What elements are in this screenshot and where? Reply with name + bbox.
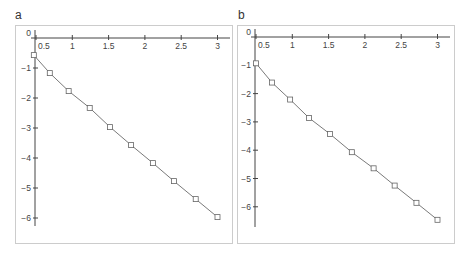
panel-a-plot: 0.511.522.530−1−2−3−4−5−6: [21, 28, 230, 226]
square-marker: [328, 132, 333, 137]
y-tick-label: −3: [21, 123, 31, 133]
square-marker: [349, 150, 354, 155]
square-marker: [288, 97, 293, 102]
x-tick-label: 0.5: [258, 40, 270, 50]
square-marker: [254, 61, 259, 66]
panel-b-plot: 0.511.522.530−1−2−3−4−5−6: [241, 27, 450, 227]
y-tick-label: 0: [26, 28, 31, 38]
square-marker: [306, 115, 311, 120]
chart-canvas: 0.511.522.530−1−2−3−4−5−6 0.511.522.530−…: [0, 0, 466, 255]
square-marker: [108, 125, 113, 130]
y-tick-label: −6: [241, 202, 251, 212]
data-line: [34, 55, 218, 217]
y-tick-label: −2: [241, 89, 251, 99]
x-tick-label: 1: [290, 40, 295, 50]
square-marker: [392, 183, 397, 188]
square-marker: [435, 217, 440, 222]
x-tick-label: 2: [363, 40, 368, 50]
panel-a-frame: [16, 26, 233, 244]
square-marker: [150, 161, 155, 166]
x-tick-label: 0.5: [38, 41, 50, 51]
square-marker: [66, 89, 71, 94]
panel-b-frame: [238, 26, 455, 244]
y-tick-label: −1: [21, 63, 31, 73]
square-marker: [31, 53, 36, 58]
y-tick-label: −3: [241, 117, 251, 127]
square-marker: [129, 143, 134, 148]
y-tick-label: −5: [21, 183, 31, 193]
square-marker: [371, 166, 376, 171]
data-line: [256, 63, 438, 220]
y-tick-label: −4: [241, 145, 251, 155]
y-tick-label: −1: [241, 60, 251, 70]
square-marker: [215, 215, 220, 220]
square-marker: [193, 197, 198, 202]
y-tick-label: −4: [21, 153, 31, 163]
x-tick-label: 1: [70, 41, 75, 51]
square-marker: [47, 71, 52, 76]
x-tick-label: 2.5: [175, 41, 187, 51]
y-tick-label: −6: [21, 213, 31, 223]
square-marker: [269, 80, 274, 85]
x-tick-label: 1.5: [323, 40, 335, 50]
x-tick-label: 2: [143, 41, 148, 51]
square-marker: [87, 105, 92, 110]
x-tick-label: 2.5: [395, 40, 407, 50]
y-tick-label: −5: [241, 174, 251, 184]
x-tick-label: 3: [435, 40, 440, 50]
x-tick-label: 3: [215, 41, 220, 51]
y-tick-label: 0: [246, 27, 251, 37]
square-marker: [171, 179, 176, 184]
y-tick-label: −2: [21, 93, 31, 103]
x-tick-label: 1.5: [103, 41, 115, 51]
square-marker: [414, 200, 419, 205]
